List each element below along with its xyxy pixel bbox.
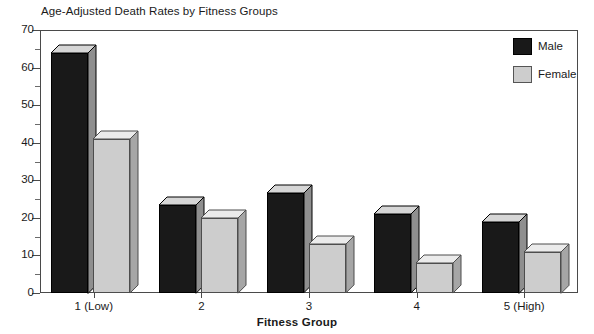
bar-side-face [561,244,569,293]
legend-swatch-male [513,38,532,55]
bar-male-group-1 [51,45,88,293]
chart-title: Age-Adjusted Death Rates by Fitness Grou… [41,5,278,17]
x-axis-category-label: 3 [306,300,312,312]
y-axis-minor-tick [35,199,40,200]
bar-side-face [346,236,354,293]
bar-female-group-3 [309,236,346,293]
x-axis-tick [417,293,418,298]
legend-label: Female [538,68,576,80]
x-axis-category-label: 1 (Low) [75,300,113,312]
bar-male-group-5 [482,214,519,293]
x-axis-category-label: 5 (High) [504,300,545,312]
y-axis-minor-tick [35,86,40,87]
y-axis-tick-label: 50 [21,99,34,111]
bar-female-group-2 [201,210,238,293]
x-axis-category-label: 2 [198,300,204,312]
y-axis-tick-label: 70 [21,24,34,36]
y-axis-tick-label: 60 [21,62,34,74]
bar-front-face [416,263,453,293]
bar-front-face [309,244,346,293]
y-axis-tick-label: 0 [28,287,34,299]
legend-label: Male [538,40,563,52]
x-axis-category-label: 4 [413,300,419,312]
bar-front-face [482,222,519,293]
bar-side-face [130,131,138,293]
y-axis-minor-tick [35,237,40,238]
bar-side-face [238,210,246,293]
y-axis-minor-tick [35,162,40,163]
bar-front-face [524,252,561,293]
x-axis-tick [201,293,202,298]
bar-front-face [267,193,304,293]
bar-female-group-4 [416,255,453,293]
bar-front-face [51,53,88,293]
y-axis-minor-tick [35,274,40,275]
y-axis-tick-label: 10 [21,249,34,261]
y-axis-tick-label: 30 [21,174,34,186]
bar-front-face [201,218,238,293]
x-axis-tick [524,293,525,298]
chart-container: Age-Adjusted Death Rates by Fitness Grou… [0,0,594,334]
y-axis-tick-label: 40 [21,137,34,149]
bar-front-face [374,214,411,293]
bar-female-group-1 [93,131,130,293]
y-axis-tick-label: 20 [21,212,34,224]
bar-female-group-5 [524,244,561,293]
bar-male-group-3 [267,185,304,293]
bar-male-group-2 [159,197,196,293]
bar-front-face [93,139,130,293]
x-axis-tick [94,293,95,298]
x-axis-tick [309,293,310,298]
legend-swatch-female [513,66,532,83]
y-axis-minor-tick [35,124,40,125]
bar-front-face [159,205,196,293]
bar-male-group-4 [374,206,411,293]
x-axis-title: Fitness Group [0,316,594,328]
y-axis-minor-tick [35,49,40,50]
